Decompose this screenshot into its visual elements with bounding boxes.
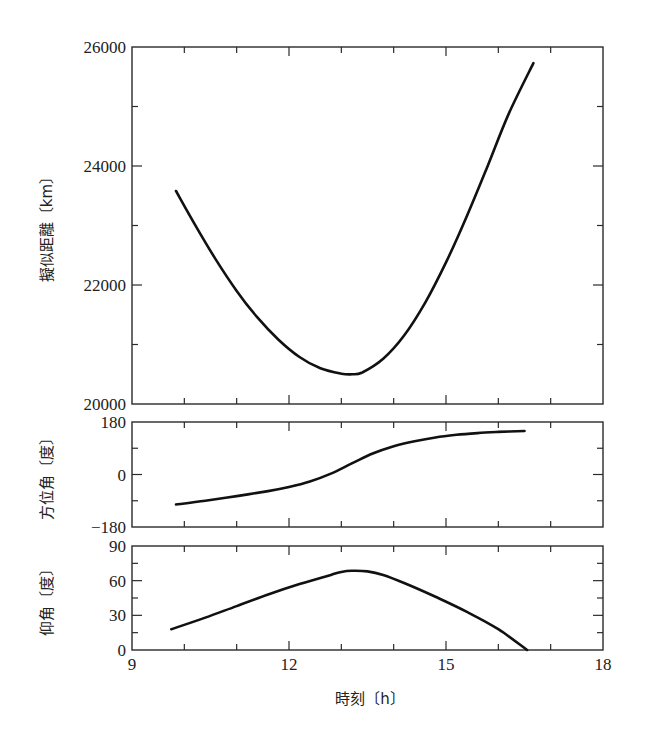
plot-frame [132, 546, 603, 650]
y-tick-label: 26000 [84, 38, 127, 57]
y-tick-label: 30 [109, 606, 126, 625]
series-line-azimuth [176, 431, 525, 505]
panel-azimuth: −1800180方位角〔度〕 [38, 413, 603, 537]
x-tick-label: 12 [281, 655, 298, 674]
y-axis-label-elevation: 仰角〔度〕 [38, 561, 56, 636]
y-tick-label: −180 [91, 518, 126, 537]
y-tick-label: 20000 [84, 395, 127, 414]
series-line-elevation [171, 571, 527, 650]
y-tick-label: 0 [118, 466, 127, 485]
plot-frame [132, 47, 603, 404]
series-line-range [176, 63, 533, 374]
y-axis-label-azimuth: 方位角〔度〕 [38, 430, 56, 520]
y-tick-label: 24000 [84, 157, 127, 176]
chart-panels: 20000220002400026000擬似距離〔km〕−1800180方位角〔… [38, 38, 612, 674]
x-axis-label: 時刻〔h〕 [335, 690, 405, 708]
y-tick-label: 90 [109, 537, 126, 556]
x-tick-label: 9 [128, 655, 137, 674]
y-axis-label-range: 擬似距離〔km〕 [38, 169, 56, 282]
chart-figure: 20000220002400026000擬似距離〔km〕−1800180方位角〔… [0, 0, 648, 742]
y-tick-label: 60 [109, 572, 126, 591]
plot-frame [132, 422, 603, 527]
x-tick-label: 18 [595, 655, 612, 674]
x-tick-label: 15 [438, 655, 455, 674]
y-tick-label: 22000 [84, 276, 127, 295]
y-tick-label: 0 [118, 641, 127, 660]
panel-range: 20000220002400026000擬似距離〔km〕 [38, 38, 603, 414]
panel-elevation: 03060909121518仰角〔度〕 [38, 537, 612, 674]
y-tick-label: 180 [101, 413, 127, 432]
